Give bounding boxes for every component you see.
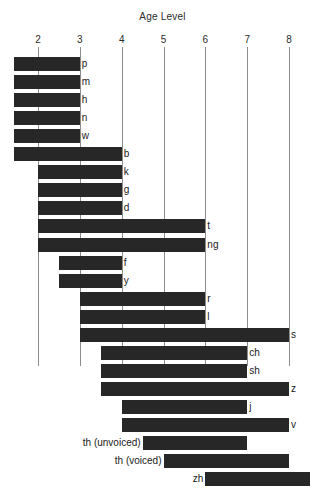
bar-label: h [82, 93, 88, 107]
bar-row: h [0, 93, 325, 111]
bar-label: p [82, 57, 88, 71]
bar-row: z [0, 382, 325, 400]
bar-ng [38, 238, 205, 252]
bar-row: f [0, 256, 325, 274]
bar-row: b [0, 147, 325, 165]
bar-row: m [0, 75, 325, 93]
bar-label: g [124, 183, 130, 197]
bar-row: ch [0, 346, 325, 364]
bar-label: n [82, 111, 88, 125]
bar-g [38, 183, 122, 197]
bar-row: ng [0, 238, 325, 256]
bar-r [80, 292, 206, 306]
bar-label: w [82, 129, 89, 143]
bar-row: sh [0, 364, 325, 382]
bar-t [38, 219, 205, 233]
bar-label: r [207, 292, 210, 306]
bar-sh [101, 364, 247, 378]
bar-row: g [0, 183, 325, 201]
bar-row: w [0, 129, 325, 147]
bar-row: j [0, 400, 325, 418]
bar-label: th (unvoiced) [83, 436, 141, 450]
bar-row: zh [0, 472, 325, 490]
bar-th-voiced [164, 454, 290, 468]
bar-row: s [0, 328, 325, 346]
bar-d [38, 201, 122, 215]
bar-label: sh [249, 364, 260, 378]
bar-zh [205, 472, 310, 486]
bar-label: j [249, 400, 251, 414]
bar-row: r [0, 292, 325, 310]
bar-label: m [82, 75, 90, 89]
bar-label: t [207, 219, 210, 233]
bar-j [122, 400, 248, 414]
bar-row: l [0, 310, 325, 328]
bar-b [14, 147, 122, 161]
bar-label: l [207, 310, 209, 324]
bar-label: k [124, 165, 129, 179]
bar-w [14, 129, 80, 143]
bar-row: th (unvoiced) [0, 436, 325, 454]
bar-k [38, 165, 122, 179]
bar-label: f [124, 256, 127, 270]
bar-ch [101, 346, 247, 360]
bar-h [14, 93, 80, 107]
bar-s [80, 328, 289, 342]
bar-label: d [124, 201, 130, 215]
bar-p [14, 57, 80, 71]
bar-row: n [0, 111, 325, 129]
bar-label: y [124, 274, 129, 288]
bar-row: d [0, 201, 325, 219]
bar-row: t [0, 219, 325, 237]
bar-label: s [291, 328, 296, 342]
bar-label: zh [193, 472, 204, 486]
bar-n [14, 111, 80, 125]
bar-m [14, 75, 80, 89]
bar-label: ch [249, 346, 260, 360]
bar-label: b [124, 147, 130, 161]
bar-label: th (voiced) [115, 454, 162, 468]
bar-row: v [0, 418, 325, 436]
bar-row: y [0, 274, 325, 292]
bar-f [59, 256, 122, 270]
bar-row: k [0, 165, 325, 183]
bar-label: ng [207, 238, 218, 252]
bar-row: th (voiced) [0, 454, 325, 472]
bar-z [101, 382, 289, 396]
bar-th-unvoiced [143, 436, 248, 450]
bar-label: z [291, 382, 296, 396]
bar-l [80, 310, 206, 324]
bar-y [59, 274, 122, 288]
bar-v [122, 418, 289, 432]
bar-row: p [0, 57, 325, 75]
bar-label: v [291, 418, 296, 432]
